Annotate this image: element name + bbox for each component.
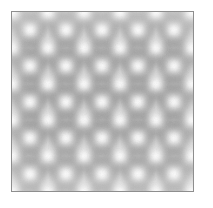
image-canvas [0, 0, 213, 208]
texture-swatch-frame [11, 11, 194, 192]
texture-pattern-render [12, 12, 193, 191]
texture-surface [12, 12, 193, 191]
